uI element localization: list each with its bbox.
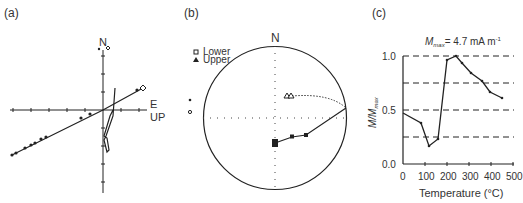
east-label: E (150, 98, 157, 110)
ytick-1.0: 1.0 (382, 51, 396, 62)
panel-c-label: (c) (372, 6, 386, 20)
xtick-100: 100 (418, 171, 435, 182)
up-label: UP (150, 111, 165, 123)
figure: (a) N E UP (b) (0, 0, 523, 203)
xtick-400: 400 (484, 171, 501, 182)
xtick-200: 200 (440, 171, 457, 182)
north-label-b: N (271, 31, 280, 45)
thermal-demag-chart (403, 55, 514, 166)
y-axis-label: M/Mmax (367, 96, 379, 128)
stereonet (188, 46, 347, 190)
zijderveld-plot (10, 46, 147, 193)
xtick-500: 500 (506, 171, 523, 182)
mmax-annotation: Mmax= 4.7 mA m-1 (425, 36, 502, 48)
ytick-0.0: 0.0 (382, 159, 396, 170)
xtick-300: 300 (462, 171, 479, 182)
panel-b-label: (b) (184, 6, 199, 20)
north-label-a: N (99, 36, 107, 48)
legend-upper: Upper (203, 54, 231, 65)
panel-a-label: (a) (4, 6, 19, 20)
x-axis-label: Temperature (°C) (419, 187, 503, 199)
ytick-0.5: 0.5 (382, 105, 396, 116)
xtick-0: 0 (400, 171, 406, 182)
